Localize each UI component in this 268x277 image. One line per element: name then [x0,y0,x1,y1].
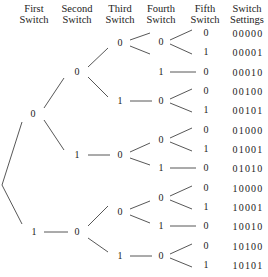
tree-branch [170,244,192,254]
header-line-1: Switch [224,3,268,14]
tree-branch [2,122,22,185]
header-line-1: Third [97,3,143,14]
switch-node: 0 [204,221,209,231]
switch-node: 1 [159,221,164,231]
switch-node: 0 [204,183,209,193]
switch-setting-value: 10010 [233,221,264,232]
switch-setting-value: 01000 [233,125,264,136]
switch-node: 0 [204,125,209,135]
switch-node: 0 [31,109,36,119]
header-line-2: Switch [11,14,57,25]
header-line-2: Settings [224,14,268,25]
header-line-1: First [11,3,57,14]
tree-branch [170,30,192,40]
switch-setting-value: 00101 [233,105,264,116]
column-header: FourthSwitch [138,3,184,25]
tree-branch [170,103,192,112]
switch-node: 0 [75,227,80,237]
switch-node: 0 [118,150,123,160]
switch-setting-value: 00010 [233,67,264,78]
switch-node: 1 [118,251,123,261]
switch-node: 0 [204,67,209,77]
switch-node: 0 [75,67,80,77]
switch-node: 0 [204,86,209,96]
header-line-2: Switch [138,14,184,25]
header-line-1: Fourth [138,3,184,14]
tree-branch [170,186,192,196]
switch-node: 0 [159,193,164,203]
column-header: SwitchSettings [224,3,268,25]
switch-node: 0 [159,37,164,47]
switch-node: 0 [159,96,164,106]
switch-node: 0 [204,163,209,173]
switch-setting-value: 10101 [233,260,264,271]
header-line-1: Fifth [182,3,228,14]
header-line-2: Switch [97,14,143,25]
tree-branch [170,89,192,99]
column-header: SecondSwitch [54,3,100,25]
switch-setting-value: 10001 [233,202,264,213]
tree-branch [170,44,192,54]
tree-branch [170,142,192,151]
tree-branch [170,200,192,209]
switch-setting-value: 10000 [233,183,264,194]
column-header: ThirdSwitch [97,3,143,25]
switch-node: 0 [159,251,164,261]
switch-node: 1 [118,96,123,106]
switch-setting-value: 10100 [233,241,264,252]
switch-setting-value: 00100 [233,86,264,97]
switch-node: 1 [204,202,209,212]
switch-node: 0 [118,38,123,48]
tree-branch [170,258,192,267]
switch-node: 1 [75,150,80,160]
tree-edges [0,0,268,277]
switch-node: 1 [204,260,209,270]
header-line-2: Switch [182,14,228,25]
switch-setting-value: 01010 [233,163,264,174]
tree-branch [44,120,64,150]
tree-branch [88,77,108,97]
switch-node: 1 [159,163,164,173]
switch-settings-tree-diagram: FirstSwitchSecondSwitchThirdSwitchFourth… [0,0,268,277]
switch-node: 0 [204,28,209,38]
tree-branch [130,158,150,165]
column-header: FirstSwitch [11,3,57,25]
tree-branch [88,238,108,252]
switch-node: 0 [204,241,209,251]
column-header: FifthSwitch [182,3,228,25]
switch-setting-value: 00000 [233,28,264,39]
tree-branch [170,128,192,138]
tree-branch [130,33,150,40]
tree-branch [130,46,150,54]
tree-branch [88,206,108,226]
switch-node: 1 [32,227,37,237]
tree-branch [2,185,22,224]
switch-node: 0 [118,207,123,217]
switch-node: 1 [204,105,209,115]
switch-setting-value: 00001 [233,47,264,58]
header-line-1: Second [54,3,100,14]
tree-branch [130,143,150,152]
switch-node: 1 [204,47,209,57]
header-line-2: Switch [54,14,100,25]
tree-branch [44,78,64,108]
switch-node: 1 [204,144,209,154]
switch-node: 0 [159,135,164,145]
switch-node: 1 [159,67,164,77]
tree-branch [130,201,150,209]
tree-branch [88,48,108,67]
switch-setting-value: 01001 [233,144,264,155]
tree-branch [130,215,150,223]
